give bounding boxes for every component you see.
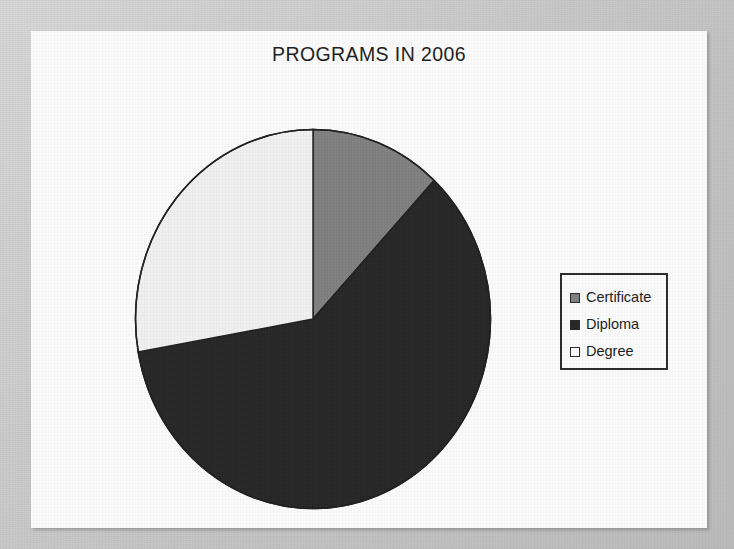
chart-legend: Certificate Diploma Degree <box>560 273 668 370</box>
pie-chart-svg <box>134 128 492 510</box>
chart-title: PROGRAMS IN 2006 <box>31 43 707 66</box>
legend-item-certificate[interactable]: Certificate <box>570 284 660 311</box>
screenshot-root: PROGRAMS IN 2006 Certificate Diploma <box>0 0 734 549</box>
pie-chart <box>134 128 492 510</box>
pie-slices <box>136 130 491 509</box>
legend-item-degree[interactable]: Degree <box>570 338 660 365</box>
legend-label-degree: Degree <box>586 344 634 359</box>
legend-swatch-diploma <box>570 320 580 330</box>
legend-item-diploma[interactable]: Diploma <box>570 311 660 338</box>
chart-canvas: PROGRAMS IN 2006 Certificate Diploma <box>31 31 707 528</box>
legend-label-certificate: Certificate <box>586 290 651 305</box>
legend-label-diploma: Diploma <box>586 317 639 332</box>
pie-slice-degree[interactable] <box>136 130 313 352</box>
legend-swatch-degree <box>570 347 580 357</box>
legend-swatch-certificate <box>570 293 580 303</box>
